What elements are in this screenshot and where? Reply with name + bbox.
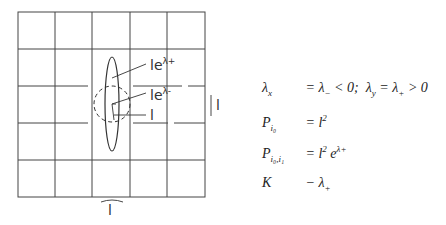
equation-p-i0-i1: Pi₀,i₁ = l2 eλ+ (262, 144, 347, 163)
grid (18, 12, 205, 197)
cell-height-label: l (216, 97, 220, 113)
cell-width-label: l (108, 202, 112, 218)
minor-axis-label: leλ- (150, 86, 171, 103)
major-axis-label: leλ+ (150, 56, 175, 73)
radius-label: l (150, 107, 154, 123)
equation-lyapunov: λx = λ− < 0; λy = λ+ > 0 (262, 80, 428, 98)
phase-space-grid-diagram (0, 0, 230, 225)
equation-p-i0: Pi₀ = l2 (262, 113, 327, 132)
equation-k: K − λ+ (262, 175, 331, 193)
